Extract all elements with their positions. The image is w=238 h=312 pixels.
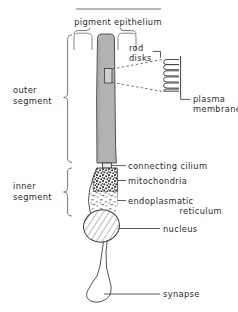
rod-disks-detail bbox=[153, 51, 191, 99]
label-endoplasmatic-reticulum-line1: endoplasmatic bbox=[128, 196, 194, 206]
outer-segment-bracket bbox=[64, 35, 72, 162]
rod-disk-stack bbox=[164, 60, 179, 92]
figure-canvas: pigment epithelium rod disks plasma memb… bbox=[0, 0, 238, 312]
label-plasma-membrane-line1: plasma bbox=[193, 94, 225, 104]
inner-segment-body bbox=[81, 167, 123, 302]
plasma-membrane-leader bbox=[181, 96, 191, 100]
label-plasma-membrane-line2: membrane bbox=[193, 104, 238, 114]
label-synapse: synapse bbox=[163, 289, 200, 299]
label-outer-segment-line2: segment bbox=[13, 96, 52, 106]
label-rod-disks-line2: disks bbox=[129, 53, 152, 63]
mitochondria-region bbox=[92, 167, 120, 194]
label-pigment-epithelium: pigment epithelium bbox=[48, 17, 188, 27]
pigment-cell-left bbox=[74, 33, 92, 50]
label-inner-segment-line1: inner bbox=[13, 181, 36, 191]
label-outer-segment-line1: outer bbox=[13, 85, 37, 95]
label-nucleus: nucleus bbox=[163, 224, 198, 234]
rod-cell-diagram bbox=[0, 0, 238, 312]
label-mitochondria: mitochondria bbox=[128, 176, 187, 186]
label-endoplasmatic-reticulum-line2: reticulum bbox=[110, 206, 222, 216]
label-inner-segment-line2: segment bbox=[13, 192, 52, 202]
inner-segment-bracket bbox=[64, 168, 72, 216]
label-connecting-cilium: connecting cilium bbox=[128, 161, 207, 171]
connecting-cilium bbox=[103, 163, 112, 168]
label-rod-disks-line1: rod bbox=[129, 43, 144, 53]
outer-segment bbox=[97, 34, 117, 163]
callout-leader-lines bbox=[112, 60, 162, 92]
rod-disk-callout-window bbox=[104, 69, 112, 84]
